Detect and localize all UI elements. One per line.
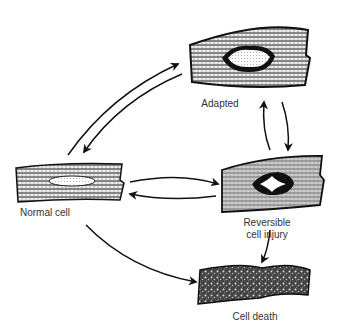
reversible-injury-label-line1: Reversible (232, 217, 302, 229)
arrow-normal-to-death-icon (86, 225, 196, 282)
reversible-injury-label-line2: cell injury (232, 229, 302, 241)
normal-cell-label: Normal cell (10, 207, 80, 219)
dead-cell-icon (198, 265, 310, 304)
arrow-reversible-to-normal-icon (130, 194, 216, 199)
arrow-adapted-to-reversible-icon (282, 102, 288, 150)
reversible-injury-cell-icon (222, 156, 324, 212)
adapted-cell-icon (190, 27, 310, 87)
arrow-adapted-to-normal-icon (84, 74, 182, 152)
cell-response-diagram (0, 0, 337, 329)
cell-death-label: Cell death (220, 311, 290, 323)
adapted-label: Adapted (190, 98, 250, 110)
arrow-reversible-to-adapted-icon (264, 102, 270, 150)
arrow-normal-to-reversible-icon (130, 177, 218, 184)
normal-cell-icon (16, 164, 124, 203)
